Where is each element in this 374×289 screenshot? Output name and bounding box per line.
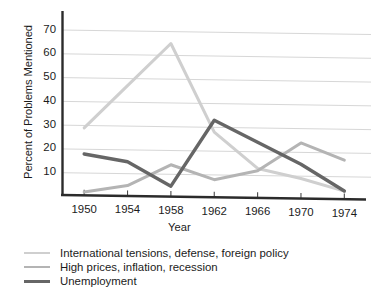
legend-label-0: International tensions, defense, foreign… bbox=[60, 246, 289, 260]
legend-label-2: Unemployment bbox=[60, 274, 137, 288]
legend-swatch-0 bbox=[24, 252, 50, 254]
legend-item-2: Unemployment bbox=[24, 274, 370, 288]
x-tick-label-1950: 1950 bbox=[63, 203, 105, 215]
data-series-group bbox=[84, 44, 344, 193]
line-chart-figure: 10203040506070 1950195419581962196619701… bbox=[0, 0, 374, 289]
gridline-60 bbox=[63, 54, 372, 58]
legend-swatch-1 bbox=[24, 266, 50, 268]
legend-item-0: International tensions, defense, foreign… bbox=[24, 246, 370, 260]
legend-swatch-2 bbox=[24, 280, 50, 283]
legend-label-1: High prices, inflation, recession bbox=[60, 260, 218, 274]
x-tick-label-1962: 1962 bbox=[193, 205, 235, 217]
gridline-10 bbox=[63, 173, 372, 177]
legend-item-1: High prices, inflation, recession bbox=[24, 260, 370, 274]
x-axis-line bbox=[61, 195, 366, 200]
x-tick-label-1958: 1958 bbox=[150, 204, 192, 216]
gridline-30 bbox=[63, 125, 372, 129]
chart-legend: International tensions, defense, foreign… bbox=[24, 246, 370, 288]
y-axis-title: Percent of Problems Mentioned bbox=[22, 12, 34, 192]
gridline-50 bbox=[63, 78, 372, 82]
x-tick-label-1970: 1970 bbox=[280, 206, 322, 218]
x-axis-title: Year bbox=[168, 221, 191, 233]
gridline-70 bbox=[63, 30, 372, 34]
x-tick-label-1966: 1966 bbox=[237, 205, 279, 217]
x-tick-label-1954: 1954 bbox=[107, 203, 149, 215]
x-tick-label-1974: 1974 bbox=[323, 207, 365, 219]
